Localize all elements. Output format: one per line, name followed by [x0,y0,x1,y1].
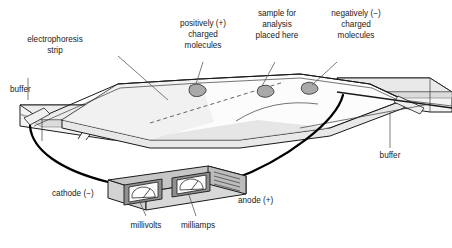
negatively-charged-molecule [301,82,318,94]
label-positive-line2: charged [188,30,218,39]
label-sample-line1: sample for [258,9,296,18]
label-electrophoresis-strip-line2: strip [47,46,63,55]
label-anode: anode (+) [238,196,274,205]
label-positive-line1: positively (+) [180,19,226,28]
label-negative-line2: charged [341,20,371,29]
label-negative-line3: molecules [338,31,375,40]
positively-charged-molecule [189,84,206,97]
label-buffer-right: buffer [380,151,401,160]
diagram-canvas: buffer electrophoresis strip positively … [0,0,452,248]
label-negative-line1: negatively (−) [331,9,381,18]
label-cathode: cathode (−) [52,189,94,198]
label-sample-line3: placed here [256,31,299,40]
label-milliamps: milliamps [181,221,215,230]
label-positive-line3: molecules [185,41,222,50]
sample-molecule [257,85,274,97]
label-electrophoresis-strip-line1: electrophoresis [27,35,83,44]
label-sample-line2: analysis [262,20,292,29]
label-buffer-left: buffer [10,85,31,94]
label-millivolts: millivolts [131,221,162,230]
power-supply [108,166,246,210]
electrophoresis-diagram: buffer electrophoresis strip positively … [0,0,452,248]
